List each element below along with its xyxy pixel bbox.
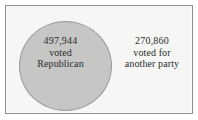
venn-diagram: 497,944 voted Republican 270,860 voted f… — [0, 0, 198, 120]
republican-count: 497,944 — [14, 35, 107, 47]
another-party-count: 270,860 — [111, 35, 193, 47]
universe-rectangle: 497,944 voted Republican 270,860 voted f… — [5, 5, 193, 114]
republican-line-2: voted — [14, 47, 107, 59]
republican-label-group: 497,944 voted Republican — [14, 35, 107, 70]
another-party-line-2: voted for — [111, 47, 193, 59]
republican-line-3: Republican — [14, 58, 107, 70]
another-party-label-group: 270,860 voted for another party — [111, 35, 193, 70]
another-party-line-3: another party — [111, 58, 193, 70]
